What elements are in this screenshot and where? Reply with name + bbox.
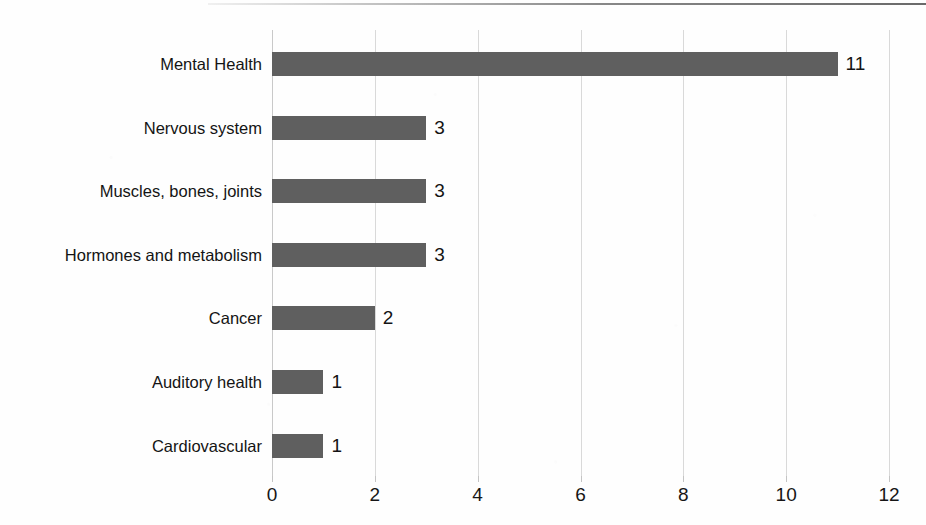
x-tick-mark-8 [683, 476, 684, 482]
x-tick-mark-0 [272, 476, 273, 482]
bar-value-label: 11 [846, 52, 866, 76]
bar [272, 243, 426, 267]
x-tick-label-12: 12 [859, 483, 919, 507]
bar-value-label: 3 [434, 243, 445, 267]
category-label: Hormones and metabolism [0, 243, 262, 267]
x-tick-label-4: 4 [448, 483, 508, 507]
y-axis-category-labels: Mental HealthNervous systemMuscles, bone… [0, 0, 262, 525]
x-tick-label-10: 10 [756, 483, 816, 507]
x-tick-mark-6 [581, 476, 582, 482]
gridline-12 [889, 30, 890, 476]
category-label: Mental Health [0, 52, 262, 76]
bar [272, 116, 426, 140]
x-tick-label-8: 8 [653, 483, 713, 507]
x-tick-mark-12 [889, 476, 890, 482]
bar-value-label: 1 [331, 434, 342, 458]
gridline-8 [683, 30, 684, 476]
category-label: Nervous system [0, 116, 262, 140]
x-tick-mark-10 [786, 476, 787, 482]
category-label: Cancer [0, 306, 262, 330]
bar-value-label: 2 [383, 306, 394, 330]
x-tick-label-6: 6 [551, 483, 611, 507]
bar [272, 306, 375, 330]
category-label: Cardiovascular [0, 434, 262, 458]
category-label: Auditory health [0, 370, 262, 394]
bar [272, 370, 323, 394]
category-label: Muscles, bones, joints [0, 179, 262, 203]
bar-value-label: 3 [434, 179, 445, 203]
chart-screenshot: 024681012 11333211 Mental HealthNervous … [0, 0, 926, 525]
x-tick-mark-4 [478, 476, 479, 482]
horizontal-bar-chart: 024681012 11333211 Mental HealthNervous … [0, 0, 926, 525]
bar [272, 179, 426, 203]
bar [272, 52, 838, 76]
gridline-10 [786, 30, 787, 476]
gridline-6 [581, 30, 582, 476]
x-tick-label-2: 2 [345, 483, 405, 507]
bar-value-label: 1 [331, 370, 342, 394]
bar-value-label: 3 [434, 116, 445, 140]
x-tick-mark-2 [375, 476, 376, 482]
bar [272, 434, 323, 458]
gridline-4 [478, 30, 479, 476]
